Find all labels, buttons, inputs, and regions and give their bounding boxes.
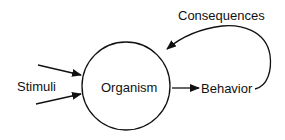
stimuli-label: Stimuli bbox=[17, 80, 56, 93]
consequences-feedback-arrow bbox=[167, 26, 270, 89]
behavior-label: Behavior bbox=[201, 82, 252, 95]
stimulus-arrow-top bbox=[38, 65, 81, 75]
consequences-label: Consequences bbox=[178, 9, 265, 22]
organism-label: Organism bbox=[101, 81, 157, 94]
stimulus-arrow-bottom bbox=[36, 94, 81, 104]
